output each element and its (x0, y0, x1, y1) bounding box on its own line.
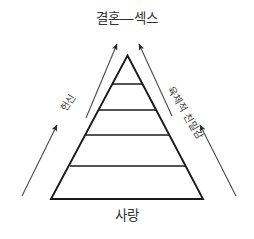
arrow-up-right-icon-top (86, 44, 117, 118)
pyramid-level-dividers (70, 84, 185, 166)
pyramid-diagram: 결혼—섹스 사랑 헌신 육체적 친밀감 (0, 0, 254, 239)
pyramid-triangle (51, 56, 203, 200)
base-label: 사랑 (0, 209, 254, 223)
pyramid-outline (51, 56, 203, 200)
arrow-up-right-icon-bottom (22, 125, 57, 196)
arrow-up-left-icon-bottom (200, 125, 236, 196)
apex-label: 결혼—섹스 (0, 12, 254, 26)
diagram-canvas (0, 0, 254, 239)
